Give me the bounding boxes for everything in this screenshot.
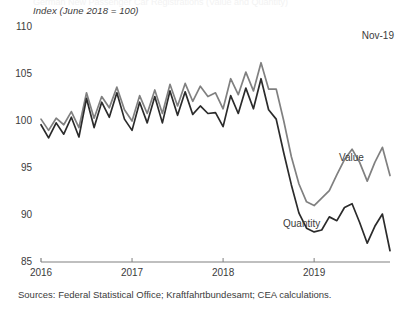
series-line-quantity — [41, 79, 390, 251]
sources-note: Sources: Federal Statistical Office; Kra… — [18, 289, 331, 300]
series-label-quantity: Quantity — [283, 218, 320, 229]
axis-lines — [41, 258, 390, 262]
series-label-value: Value — [339, 152, 364, 163]
series-line-value — [41, 63, 390, 206]
data-series-group — [41, 63, 390, 251]
chart-container: German New Passenger Car Registrations (… — [0, 0, 402, 309]
